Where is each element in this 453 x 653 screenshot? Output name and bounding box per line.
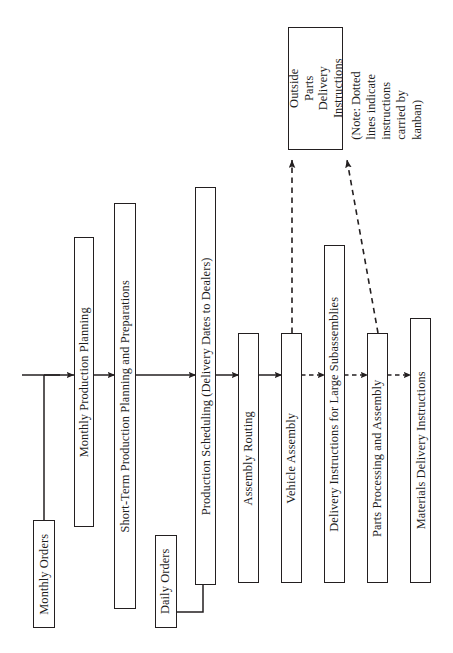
kanban-note-text: (Note: Dotted lines indicate instruction…	[349, 70, 425, 140]
node-materials-delivery-instructions[interactable]: Materials Delivery Instructions	[410, 318, 431, 583]
node-vehicle-assembly[interactable]: Vehicle Assembly	[281, 333, 302, 583]
node-label-vehicle-assembly: Vehicle Assembly	[284, 413, 299, 504]
kanban-note: (Note: Dotted lines indicate instruction…	[352, 25, 422, 185]
connector-parts-processing-to-outside-parts	[347, 160, 378, 333]
node-assembly-routing[interactable]: Assembly Routing	[238, 333, 259, 583]
node-production-scheduling[interactable]: Production Scheduling (Delivery Dates to…	[195, 187, 216, 585]
node-label-assembly-routing: Assembly Routing	[241, 411, 256, 505]
node-label-short-term-production-planning: Short-Term Production Planning and Prepa…	[118, 280, 133, 532]
node-daily-orders[interactable]: Daily Orders	[155, 535, 177, 628]
node-label-outside-parts-delivery-instructions: Outside Parts Delivery Instructions	[286, 59, 345, 119]
flowchart-canvas: Monthly Orders Monthly Production Planni…	[0, 0, 453, 653]
node-short-term-production-planning[interactable]: Short-Term Production Planning and Prepa…	[114, 203, 136, 609]
node-delivery-instructions-large-subassemblies[interactable]: Delivery Instructions for Large Subassem…	[324, 245, 345, 583]
node-parts-processing-and-assembly[interactable]: Parts Processing and Assembly	[367, 333, 388, 583]
node-label-materials-delivery-instructions: Materials Delivery Instructions	[413, 372, 428, 530]
node-label-daily-orders: Daily Orders	[159, 549, 174, 615]
node-label-monthly-orders: Monthly Orders	[37, 534, 52, 615]
node-outside-parts-delivery-instructions[interactable]: Outside Parts Delivery Instructions	[288, 27, 343, 150]
node-label-monthly-production-planning: Monthly Production Planning	[77, 307, 92, 457]
node-label-parts-processing-and-assembly: Parts Processing and Assembly	[370, 379, 385, 536]
node-monthly-orders[interactable]: Monthly Orders	[33, 520, 55, 628]
connector-daily-orders-to-production-scheduling	[176, 585, 203, 612]
node-label-delivery-instructions-large-subassemblies: Delivery Instructions for Large Subassem…	[327, 297, 342, 532]
node-label-production-scheduling: Production Scheduling (Delivery Dates to…	[198, 257, 213, 515]
node-monthly-production-planning[interactable]: Monthly Production Planning	[74, 237, 94, 527]
